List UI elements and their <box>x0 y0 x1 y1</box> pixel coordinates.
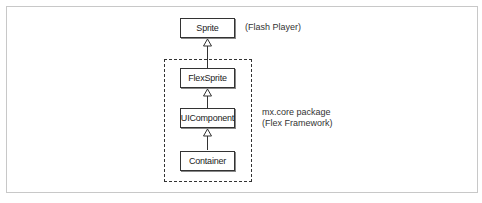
inheritance-arrow-flexsprite-sprite <box>204 39 212 68</box>
package-name: mx.core package <box>262 107 333 118</box>
inheritance-arrow-uicomponent-flexsprite <box>204 89 212 108</box>
class-box-sprite: Sprite <box>180 18 235 38</box>
class-box-uicomponent: UIComponent <box>180 108 235 128</box>
inheritance-arrow-container-uicomponent <box>204 129 212 150</box>
class-box-flexsprite: FlexSprite <box>180 68 235 88</box>
class-label-uicomponent: UIComponent <box>181 113 234 123</box>
hollow-triangle-arrowhead <box>204 39 212 46</box>
hollow-triangle-arrowhead <box>204 129 212 136</box>
package-annotation: mx.core package (Flex Framework) <box>262 107 333 129</box>
package-framework: (Flex Framework) <box>262 118 333 129</box>
inheritance-arrows <box>0 0 482 203</box>
class-box-container: Container <box>180 151 235 171</box>
class-label-sprite: Sprite <box>196 23 218 33</box>
class-label-container: Container <box>189 156 226 166</box>
class-label-flexsprite: FlexSprite <box>188 73 227 83</box>
flash-player-annotation: (Flash Player) <box>245 22 301 33</box>
hollow-triangle-arrowhead <box>204 89 212 96</box>
